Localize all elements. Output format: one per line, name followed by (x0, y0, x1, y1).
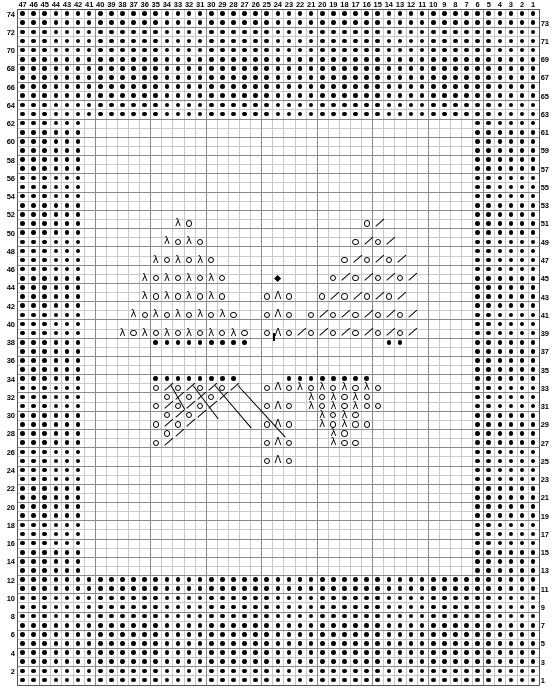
purl-dot-icon (498, 230, 503, 235)
purl-dot-icon (287, 577, 292, 582)
purl-dot-icon (320, 84, 325, 89)
purl-dot-icon (131, 623, 136, 628)
purl-dot-icon (375, 632, 380, 637)
purl-dot-icon (242, 75, 247, 80)
purl-dot-icon (54, 157, 59, 162)
purl-dot-icon (409, 11, 414, 16)
purl-dot-icon (509, 495, 514, 500)
row-label-left-48: 48 (0, 247, 15, 256)
purl-dot-icon (298, 11, 303, 16)
purl-dot-icon (287, 84, 292, 89)
purl-dot-icon (498, 367, 503, 372)
purl-dot-icon (475, 11, 480, 16)
yarn-over-icon (352, 239, 358, 245)
purl-dot-icon (220, 93, 225, 98)
purl-dot-icon (31, 203, 36, 208)
purl-dot-icon (42, 367, 47, 372)
purl-dot-icon (187, 623, 192, 628)
purl-dot-icon (65, 139, 70, 144)
purl-dot-icon (98, 75, 103, 80)
ssk-left-decrease-icon: λ (161, 291, 172, 301)
row-label-left-62: 62 (0, 119, 15, 128)
purl-dot-icon (42, 650, 47, 655)
purl-dot-icon (475, 166, 480, 171)
column-label-2: 2 (517, 0, 528, 9)
purl-dot-icon (320, 623, 325, 628)
purl-dot-icon (486, 641, 491, 646)
purl-dot-icon (65, 431, 70, 436)
purl-dot-icon (276, 20, 281, 25)
purl-dot-icon (76, 568, 81, 573)
purl-dot-icon (475, 221, 480, 226)
purl-dot-icon (409, 632, 414, 637)
purl-dot-icon (431, 659, 436, 664)
row-label-left-64: 64 (0, 101, 15, 110)
row-label-left-14: 14 (0, 557, 15, 566)
purl-dot-icon (42, 422, 47, 427)
ssk-left-decrease-icon: λ (184, 273, 195, 283)
purl-dot-icon (486, 157, 491, 162)
purl-dot-icon (209, 623, 214, 628)
purl-dot-icon (498, 440, 503, 445)
purl-dot-icon (198, 57, 203, 62)
yarn-over-icon (319, 293, 325, 299)
purl-dot-icon (42, 313, 47, 318)
purl-dot-icon (76, 358, 81, 363)
ssk-left-decrease-icon: λ (317, 382, 328, 392)
purl-dot-icon (20, 84, 25, 89)
purl-dot-icon (153, 641, 158, 646)
purl-dot-icon (375, 57, 380, 62)
purl-dot-icon (486, 148, 491, 153)
yarn-over-icon (142, 312, 148, 318)
purl-dot-icon (65, 157, 70, 162)
purl-dot-icon (431, 11, 436, 16)
purl-dot-icon (431, 30, 436, 35)
purl-dot-icon (165, 632, 170, 637)
purl-dot-icon (109, 586, 114, 591)
purl-dot-icon (231, 650, 236, 655)
purl-dot-icon (54, 641, 59, 646)
purl-dot-icon (520, 559, 525, 564)
purl-dot-icon (20, 221, 25, 226)
purl-dot-icon (331, 659, 336, 664)
purl-dot-icon (475, 176, 480, 181)
purl-dot-icon (520, 349, 525, 354)
purl-dot-icon (498, 66, 503, 71)
purl-dot-icon (42, 66, 47, 71)
purl-dot-icon (109, 678, 114, 683)
row-label-right-63: 63 (541, 110, 557, 119)
row-label-left-20: 20 (0, 503, 15, 512)
purl-dot-icon (353, 632, 358, 637)
purl-dot-icon (165, 75, 170, 80)
purl-dot-icon (453, 75, 458, 80)
purl-dot-icon (98, 623, 103, 628)
purl-dot-icon (242, 66, 247, 71)
purl-dot-icon (165, 20, 170, 25)
yarn-over-icon (164, 312, 170, 318)
purl-dot-icon (475, 203, 480, 208)
ssk-left-decrease-icon: λ (172, 218, 183, 228)
purl-dot-icon (142, 66, 147, 71)
purl-dot-icon (309, 66, 314, 71)
purl-dot-icon (109, 623, 114, 628)
purl-dot-icon (20, 112, 25, 117)
central-double-decrease-icon: Λ (272, 382, 283, 392)
purl-dot-icon (220, 596, 225, 601)
row-label-right-49: 49 (541, 238, 557, 247)
purl-dot-icon (253, 57, 258, 62)
purl-dot-icon (76, 66, 81, 71)
purl-dot-icon (120, 75, 125, 80)
purl-dot-icon (442, 632, 447, 637)
purl-dot-icon (342, 669, 347, 674)
purl-dot-icon (498, 212, 503, 217)
purl-dot-icon (475, 386, 480, 391)
purl-dot-icon (520, 75, 525, 80)
purl-dot-icon (209, 30, 214, 35)
purl-dot-icon (509, 276, 514, 281)
purl-dot-icon (342, 93, 347, 98)
purl-dot-icon (498, 285, 503, 290)
purl-dot-icon (209, 614, 214, 619)
purl-dot-icon (142, 641, 147, 646)
row-label-left-8: 8 (0, 612, 15, 621)
purl-dot-icon (209, 340, 214, 345)
